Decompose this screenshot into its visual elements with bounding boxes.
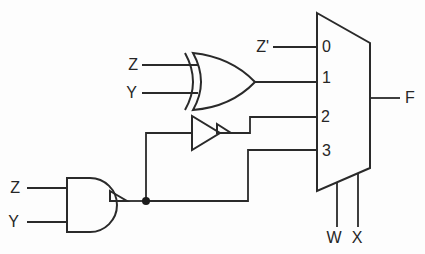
buffer-gate [192, 116, 231, 150]
mux-port-1-label: 1 [322, 69, 331, 86]
xor-body [193, 53, 255, 110]
label-output-f: F [405, 89, 415, 106]
xor-gate [185, 53, 255, 110]
mux-port-0-label: 0 [322, 38, 331, 55]
signal-labels: Z' Z Y Z Y F W X [8, 38, 415, 246]
mux-port-3-label: 3 [322, 142, 331, 159]
nand-output-triangle-icon [110, 191, 127, 201]
buffer-triangle [192, 116, 220, 150]
label-select-w: W [326, 229, 342, 246]
mux-4to1: 0 1 2 3 [317, 13, 370, 191]
nand-gate [67, 178, 127, 232]
mux-port-2-label: 2 [321, 108, 330, 125]
label-select-x: X [352, 229, 363, 246]
nand-body [67, 178, 117, 232]
wire-node-to-buffer [146, 133, 192, 201]
junction-dot [142, 197, 150, 205]
wire-buffer-to-port2 [230, 117, 317, 133]
wire-node-to-port3 [146, 150, 317, 201]
label-xor-y: Y [126, 84, 137, 101]
label-zprime: Z' [256, 38, 269, 55]
label-nand-y: Y [8, 213, 19, 230]
circuit-diagram: 0 1 2 3 Z' Z Y Z Y F W X [0, 0, 425, 254]
xor-back-curve [185, 53, 193, 110]
circuit-canvas: 0 1 2 3 Z' Z Y Z Y F W X [0, 0, 425, 254]
label-nand-z: Z [10, 179, 20, 196]
label-xor-z: Z [128, 56, 138, 73]
